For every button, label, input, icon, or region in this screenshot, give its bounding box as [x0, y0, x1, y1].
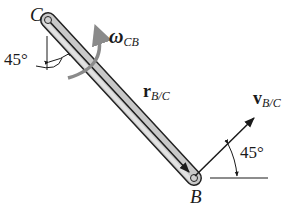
angle-arc-b: [228, 144, 237, 176]
point-c-label: C: [30, 5, 43, 24]
omega-symbol: ω: [109, 25, 123, 47]
velocity-vector-label: vB/C: [253, 89, 281, 107]
angular-velocity-label: ωCB: [109, 26, 139, 46]
r-symbol: r: [143, 81, 151, 101]
r-subscript: B/C: [151, 89, 170, 103]
omega-subscript: CB: [123, 35, 138, 49]
angle-c-label: 45°: [4, 51, 28, 68]
position-vector-label: rB/C: [143, 82, 170, 100]
point-b-label: B: [190, 187, 202, 206]
pivot-c: [45, 17, 52, 24]
diagram-canvas: [0, 0, 289, 210]
v-subscript: B/C: [262, 96, 281, 110]
angle-b-label: 45°: [240, 144, 264, 161]
v-symbol: v: [253, 88, 262, 108]
